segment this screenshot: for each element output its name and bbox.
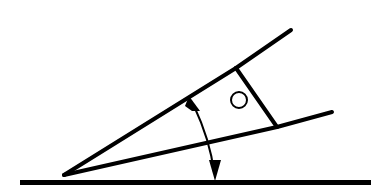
wedge-lower-edge: [64, 127, 277, 175]
angle-arrowhead-down-icon: [209, 160, 221, 181]
upper-prong: [236, 30, 291, 68]
pivot-hole-icon: [231, 92, 247, 108]
tool-head-right-edge: [236, 68, 277, 127]
figure-canvas: [0, 0, 383, 193]
lower-prong: [277, 112, 332, 127]
wedge-upper-edge: [64, 68, 236, 175]
ground-reference-line: [20, 180, 371, 185]
angle-wedge-diagram: [0, 0, 383, 193]
